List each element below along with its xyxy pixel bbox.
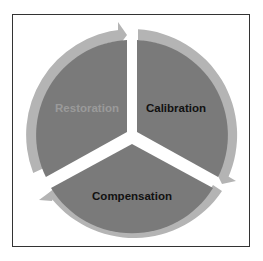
label-calibration: Calibration: [146, 102, 206, 114]
wedges: [36, 40, 228, 233]
cycle-diagram: Restoration Calibration Compensation: [0, 0, 263, 261]
label-compensation: Compensation: [92, 190, 172, 202]
label-restoration: Restoration: [55, 102, 119, 114]
